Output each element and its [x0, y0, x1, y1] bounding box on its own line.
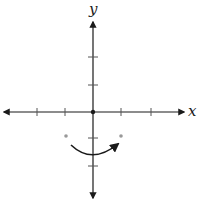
marker-point-right: [119, 134, 123, 138]
curve-arc-arrow: [71, 144, 118, 155]
x-axis-label: x: [188, 104, 196, 119]
coordinate-plane: [0, 0, 200, 202]
origin-point: [91, 110, 95, 114]
y-axis-label: y: [89, 2, 97, 17]
marker-point-left: [64, 134, 68, 138]
